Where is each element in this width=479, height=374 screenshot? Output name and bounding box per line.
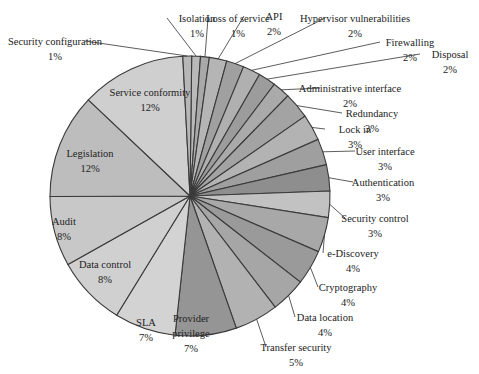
leader-line xyxy=(289,295,295,317)
slice-percent-label: 5% xyxy=(289,357,303,368)
slice-category-label: API xyxy=(266,11,283,22)
slice-percent-label: 2% xyxy=(348,28,362,39)
slice-percent-label: 7% xyxy=(139,332,153,343)
slice-category-label: Service conformity xyxy=(110,87,192,98)
pie-chart: Isolation1%Loss of service1%API2%Hypervi… xyxy=(0,0,479,374)
slice-category-label: Hypervisor vulnerabilities xyxy=(300,13,410,24)
slice-percent-label: 3% xyxy=(376,192,390,203)
slice-category-label: Administrative interface xyxy=(299,83,402,94)
slice-category-label: Firewalling xyxy=(386,37,435,48)
slice-category-label: Transfer security xyxy=(260,342,332,353)
leader-line xyxy=(235,18,325,64)
slice-category-label: Loss of service xyxy=(206,13,270,24)
slice-percent-label: 1% xyxy=(48,51,62,62)
slice-category-label: privilege xyxy=(172,328,210,339)
slice-category-label: Lock in xyxy=(339,124,372,135)
slice-category-label: Audit xyxy=(52,216,76,227)
slice-category-label: Redundancy xyxy=(346,108,399,119)
slice-percent-label: 12% xyxy=(140,102,160,113)
slice-category-label: Authentication xyxy=(352,177,415,188)
slice-category-label: SLA xyxy=(136,317,156,328)
slice-category-label: Disposal xyxy=(432,49,469,60)
slice-category-label: Security configuration xyxy=(8,36,103,47)
slice-percent-label: 4% xyxy=(318,327,332,338)
slice-percent-label: 8% xyxy=(57,231,71,242)
slice-percent-label: 8% xyxy=(98,274,112,285)
slice-percent-label: 2% xyxy=(267,26,281,37)
slice-category-label: Data control xyxy=(79,259,131,270)
slice-category-label: Legislation xyxy=(66,148,114,159)
slice-category-label: Data location xyxy=(297,312,354,323)
slice-percent-label: 3% xyxy=(368,228,382,239)
slice-category-label: Security control xyxy=(341,213,408,224)
slice-percent-label: 1% xyxy=(190,28,204,39)
leader-line xyxy=(310,267,318,287)
leader-line xyxy=(312,127,325,129)
slice-percent-label: 2% xyxy=(443,64,457,75)
slice-percent-label: 4% xyxy=(341,297,355,308)
slice-percent-label: 2% xyxy=(403,52,417,63)
slice-category-label: e-Discovery xyxy=(327,248,379,259)
pie-slices xyxy=(50,56,330,336)
slice-percent-label: 4% xyxy=(346,263,360,274)
slice-percent-label: 12% xyxy=(80,163,100,174)
leader-line xyxy=(323,151,355,152)
leader-line xyxy=(329,178,353,182)
slice-percent-label: 7% xyxy=(184,343,198,354)
slice-percent-label: 1% xyxy=(231,28,245,39)
slice-percent-label: 3% xyxy=(378,161,392,172)
slice-category-label: Cryptography xyxy=(319,282,378,293)
leader-line xyxy=(297,106,342,113)
slice-category-label: User interface xyxy=(355,146,415,157)
leader-line xyxy=(252,42,380,70)
slice-category-label: Provider xyxy=(173,313,210,324)
leader-line xyxy=(267,54,420,79)
